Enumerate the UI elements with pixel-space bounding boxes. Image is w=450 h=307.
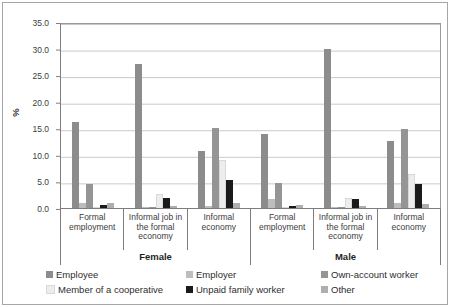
legend-item-own-account-worker: Own-account worker xyxy=(321,269,446,280)
bar-employer xyxy=(79,203,86,208)
legend-swatch-icon xyxy=(46,271,53,278)
bar-group-female-informal-economy xyxy=(187,24,250,208)
bar-member-of-a-cooperative xyxy=(93,207,100,208)
bar-group-female-informal-job-in-the-formal-economy xyxy=(124,24,187,208)
category-axis: Formal employmentInformal job in the for… xyxy=(60,209,441,250)
bar-other xyxy=(422,204,429,208)
category-label: Formal employment xyxy=(60,209,124,250)
bar-employer xyxy=(142,207,149,208)
bar-own-account-worker xyxy=(401,129,408,208)
legend-item-member-of-a-cooperative: Member of a cooperative xyxy=(46,284,186,295)
bar-employer xyxy=(205,206,212,208)
category-label: Informal economy xyxy=(188,209,251,250)
y-tick-label: 5.0 xyxy=(9,177,49,187)
category-label: Formal employment xyxy=(251,209,314,250)
y-tick-label: 20.0 xyxy=(9,98,49,108)
bar-other xyxy=(233,203,240,208)
legend: EmployeeEmployerOwn-account workerMember… xyxy=(46,269,446,295)
bar-own-account-worker xyxy=(212,128,219,208)
bar-own-account-worker xyxy=(86,184,93,208)
legend-swatch-icon xyxy=(186,286,193,293)
bar-employee xyxy=(324,49,331,208)
category-label: Informal job in the formal economy xyxy=(124,209,187,250)
legend-item-employer: Employer xyxy=(186,269,321,280)
bar-employee xyxy=(261,134,268,208)
bar-member-of-a-cooperative xyxy=(282,207,289,208)
bar-employer xyxy=(394,203,401,208)
y-tick-label: 15.0 xyxy=(9,124,49,134)
plot-area xyxy=(60,23,441,209)
y-tick-label: 30.0 xyxy=(9,45,49,55)
category-label: Informal economy xyxy=(378,209,441,250)
bar-group-male-informal-job-in-the-formal-economy xyxy=(314,24,377,208)
bar-other xyxy=(359,206,366,208)
bar-unpaid-family-worker xyxy=(289,206,296,208)
legend-swatch-icon xyxy=(321,271,328,278)
bar-other xyxy=(107,203,114,208)
bar-own-account-worker xyxy=(149,207,156,208)
bar-employee xyxy=(72,122,79,208)
legend-swatch-icon xyxy=(186,271,193,278)
bar-own-account-worker xyxy=(275,183,282,208)
bar-unpaid-family-worker xyxy=(163,198,170,209)
bar-other xyxy=(296,205,303,208)
group-label-female: Female xyxy=(60,250,251,265)
legend-label: Employee xyxy=(56,269,98,280)
chart-frame: % 35.030.025.020.015.010.05.00.0 Formal … xyxy=(2,2,448,305)
y-tick-label: 25.0 xyxy=(9,71,49,81)
bar-member-of-a-cooperative xyxy=(219,160,226,208)
bar-other xyxy=(170,206,177,208)
legend-swatch-icon xyxy=(46,285,55,294)
bar-group-male-informal-economy xyxy=(377,24,440,208)
legend-label: Member of a cooperative xyxy=(58,284,163,295)
group-axis: FemaleMale xyxy=(60,250,441,265)
bar-group-male-formal-employment xyxy=(251,24,314,208)
bar-employer xyxy=(268,199,275,208)
bar-employer xyxy=(331,207,338,208)
chart-canvas: % 35.030.025.020.015.010.05.00.0 Formal … xyxy=(0,0,450,307)
legend-label: Unpaid family worker xyxy=(196,284,285,295)
bar-employee xyxy=(387,141,394,208)
group-label-male: Male xyxy=(251,250,441,265)
bar-own-account-worker xyxy=(338,207,345,208)
bar-unpaid-family-worker xyxy=(100,205,107,208)
legend-label: Employer xyxy=(196,269,236,280)
bar-employee xyxy=(198,151,205,208)
y-axis-title: % xyxy=(10,108,21,116)
y-tick-label: 10.0 xyxy=(9,151,49,161)
legend-label: Other xyxy=(331,284,355,295)
bar-member-of-a-cooperative xyxy=(408,174,415,208)
bar-member-of-a-cooperative xyxy=(345,198,352,208)
category-label: Informal job in the formal economy xyxy=(314,209,377,250)
legend-item-unpaid-family-worker: Unpaid family worker xyxy=(186,284,321,295)
y-tick-label: 35.0 xyxy=(9,18,49,28)
bar-unpaid-family-worker xyxy=(352,199,359,208)
legend-label: Own-account worker xyxy=(331,269,418,280)
bar-member-of-a-cooperative xyxy=(156,194,163,208)
bar-unpaid-family-worker xyxy=(226,180,233,208)
legend-item-other: Other xyxy=(321,284,446,295)
bar-group-female-formal-employment xyxy=(61,24,124,208)
bar-unpaid-family-worker xyxy=(415,184,422,208)
legend-item-employee: Employee xyxy=(46,269,186,280)
bar-employee xyxy=(135,64,142,208)
legend-swatch-icon xyxy=(321,286,328,293)
y-tick-label: 0.0 xyxy=(9,204,49,214)
